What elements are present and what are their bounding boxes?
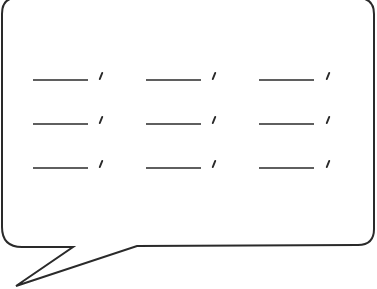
bubble-outline <box>2 0 374 286</box>
speech-bubble <box>0 0 377 289</box>
